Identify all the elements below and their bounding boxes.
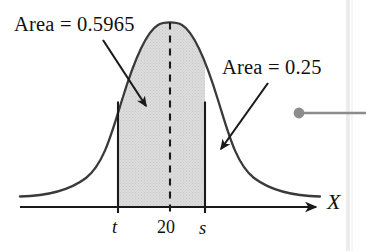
area-label-right: Area = 0.25 (222, 57, 322, 78)
tick-label-mean: 20 (157, 218, 175, 236)
annotation-arrow-right (221, 83, 268, 149)
area-label-left: Area = 0.5965 (14, 14, 135, 35)
tick-label-s: s (199, 219, 206, 238)
tick-label-t: t (112, 218, 117, 237)
distribution-chart-svg (0, 0, 366, 251)
callout-dot-icon (294, 108, 305, 119)
page-edge-artifact (346, 0, 353, 251)
normal-distribution-figure: Area = 0.5965 Area = 0.25 t 20 s X (0, 0, 366, 251)
x-axis-label: X (327, 191, 340, 213)
callout-leader (294, 108, 366, 119)
